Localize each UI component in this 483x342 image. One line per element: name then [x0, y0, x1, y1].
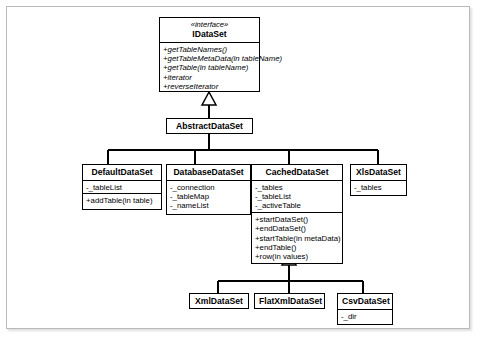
attributes-compartment-cacheddataset: -_tables -_tableList -_activeTable: [252, 180, 342, 212]
class-name-abstractdataset: AbstractDataSet: [167, 119, 252, 134]
class-box-databasedataset[interactable]: DatabaseDataSet -_connection -_tableMap …: [166, 164, 251, 215]
attribute-item: -_dir: [338, 312, 392, 321]
class-box-defaultdataset[interactable]: DefaultDataSet -_tableList +addTable(in …: [82, 164, 162, 210]
class-box-abstractdataset[interactable]: AbstractDataSet: [166, 118, 253, 134]
class-box-csvdataset[interactable]: CsvDataSet -_dir: [337, 293, 393, 325]
attribute-item: -_tables: [252, 183, 342, 192]
attribute-item: -_nameList: [167, 201, 250, 210]
operation-item: +getTableMetaData(in tableName): [160, 54, 259, 63]
operation-item: +reverseIterator: [160, 82, 259, 91]
class-box-xmldataset[interactable]: XmlDataSet: [189, 293, 249, 309]
operation-item: +addTable(in table): [83, 196, 161, 205]
class-box-cacheddataset[interactable]: CachedDataSet -_tables -_tableList -_act…: [251, 164, 343, 264]
class-stereotype-idataset: «interface»: [160, 18, 259, 29]
class-name-xlsdataset: XlsDataSet: [351, 165, 406, 180]
class-name-flatxmldataset: FlatXmlDataSet: [255, 294, 324, 309]
class-box-flatxmldataset[interactable]: FlatXmlDataSet: [254, 293, 325, 309]
operation-item: +endTable(): [252, 243, 342, 252]
attributes-compartment-xlsdataset: -_tables: [351, 180, 406, 193]
class-name-databasedataset: DatabaseDataSet: [167, 165, 250, 180]
class-name-csvdataset: CsvDataSet: [338, 294, 392, 309]
class-box-xlsdataset[interactable]: XlsDataSet -_tables: [350, 164, 407, 196]
class-box-idataset[interactable]: «interface» IDataSet +getTableNames() +g…: [159, 17, 260, 92]
operation-item: +startDataSet(): [252, 215, 342, 224]
attributes-compartment-csvdataset: -_dir: [338, 309, 392, 322]
operations-compartment-cacheddataset: +startDataSet() +endDataSet() +startTabl…: [252, 212, 342, 263]
attribute-item: -_tableList: [252, 192, 342, 201]
operation-item: +startTable(in metaData): [252, 234, 342, 243]
operations-compartment-defaultdataset: +addTable(in table): [83, 193, 161, 206]
operation-item: +getTableNames(): [160, 45, 259, 54]
attribute-item: -_connection: [167, 183, 250, 192]
class-name-cacheddataset: CachedDataSet: [252, 165, 342, 180]
operation-item: +endDataSet(): [252, 224, 342, 233]
attribute-item: -_tableMap: [167, 192, 250, 201]
operation-item: +iterator: [160, 73, 259, 82]
diagram-canvas: «interface» IDataSet +getTableNames() +g…: [0, 0, 483, 342]
attributes-compartment-databasedataset: -_connection -_tableMap -_nameList: [167, 180, 250, 212]
attribute-item: -_tables: [351, 183, 406, 192]
operations-compartment-idataset: +getTableNames() +getTableMetaData(in ta…: [160, 42, 259, 93]
attribute-item: -_activeTable: [252, 201, 342, 210]
class-name-defaultdataset: DefaultDataSet: [83, 165, 161, 180]
attributes-compartment-defaultdataset: -_tableList: [83, 180, 161, 193]
class-name-xmldataset: XmlDataSet: [190, 294, 248, 309]
class-name-idataset: IDataSet: [160, 29, 259, 42]
operation-item: +row(in values): [252, 252, 342, 261]
operation-item: +getTable(in tableName): [160, 63, 259, 72]
attribute-item: -_tableList: [83, 183, 161, 192]
